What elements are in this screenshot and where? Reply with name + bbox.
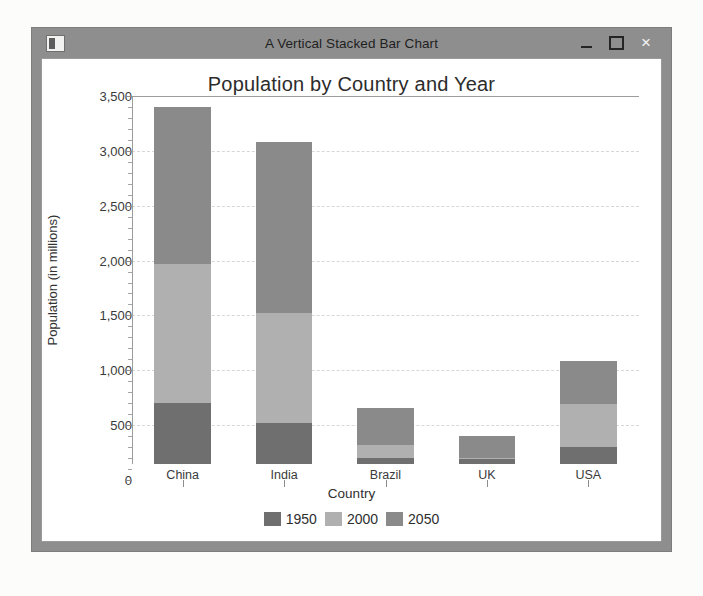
- legend-item[interactable]: 2000: [325, 511, 378, 527]
- bar-segment[interactable]: [357, 445, 414, 458]
- x-axis-tick-labels: ChinaIndiaBrazilUKUSA: [42, 464, 661, 484]
- bar-segment[interactable]: [256, 142, 313, 312]
- x-axis-tick-label: India: [271, 468, 298, 482]
- y-axis-major-tick: [125, 206, 132, 207]
- y-axis-minor-tick: [128, 359, 132, 360]
- bar-segment[interactable]: [154, 264, 211, 403]
- y-axis-minor-tick: [128, 129, 132, 130]
- legend-label: 2050: [408, 511, 439, 527]
- chart-axes: [132, 96, 639, 464]
- y-axis-minor-tick: [128, 414, 132, 415]
- y-axis-minor-tick: [128, 447, 132, 448]
- legend-item[interactable]: 1950: [264, 511, 317, 527]
- x-axis-tick-label: China: [166, 468, 199, 482]
- bar-series-layer: [132, 96, 639, 464]
- y-axis-major-tick: [125, 96, 132, 97]
- bar-segment[interactable]: [154, 107, 211, 263]
- bar-segment[interactable]: [357, 408, 414, 445]
- x-axis-tick-label: USA: [575, 468, 601, 482]
- y-axis-minor-tick: [128, 304, 132, 305]
- y-axis-minor-tick: [128, 118, 132, 119]
- bar-group[interactable]: [154, 80, 211, 464]
- bar-segment[interactable]: [154, 403, 211, 464]
- bar-group[interactable]: [560, 80, 617, 464]
- y-axis-minor-tick: [128, 436, 132, 437]
- y-axis-minor-tick: [128, 381, 132, 382]
- y-axis-minor-tick: [128, 293, 132, 294]
- x-axis-title: Country: [42, 486, 661, 501]
- y-axis-minor-tick: [128, 458, 132, 459]
- x-axis-tick-label: Brazil: [370, 468, 401, 482]
- y-axis-minor-tick: [128, 184, 132, 185]
- bar-segment[interactable]: [560, 404, 617, 447]
- bar-segment[interactable]: [459, 458, 516, 459]
- window-client-area: Population by Country and Year Populatio…: [41, 58, 662, 542]
- legend-label: 2000: [347, 511, 378, 527]
- bar-group[interactable]: [357, 80, 414, 464]
- application-window: A Vertical Stacked Bar Chart × Populatio…: [31, 27, 672, 552]
- y-axis-major-tick: [125, 315, 132, 316]
- bar-segment[interactable]: [560, 361, 617, 404]
- legend-color-swatch: [386, 512, 403, 526]
- y-axis-line: [132, 96, 133, 464]
- desktop-background: A Vertical Stacked Bar Chart × Populatio…: [0, 0, 703, 596]
- y-axis-minor-tick: [128, 250, 132, 251]
- y-axis-minor-tick: [128, 348, 132, 349]
- y-axis-minor-tick: [128, 107, 132, 108]
- y-axis-title: Population (in millions): [45, 180, 60, 380]
- y-axis-minor-tick: [128, 326, 132, 327]
- y-axis-major-tick: [125, 261, 132, 262]
- bar-segment[interactable]: [459, 436, 516, 457]
- y-axis-major-tick: [125, 425, 132, 426]
- y-axis-minor-tick: [128, 272, 132, 273]
- x-axis-line: [132, 96, 639, 97]
- y-axis-major-tick: [125, 370, 132, 371]
- y-axis-tick-labels: 05001,0001,5002,0002,5003,0003,500: [68, 96, 132, 464]
- bar-segment[interactable]: [560, 447, 617, 464]
- legend-color-swatch: [264, 512, 281, 526]
- bar-group[interactable]: [256, 80, 313, 464]
- bar-segment[interactable]: [256, 313, 313, 423]
- bar-segment[interactable]: [256, 423, 313, 464]
- y-axis-minor-tick: [128, 403, 132, 404]
- x-axis-tick-label: UK: [478, 468, 495, 482]
- minimize-button[interactable]: [571, 30, 601, 56]
- window-controls: ×: [571, 30, 665, 56]
- y-axis-minor-tick: [128, 195, 132, 196]
- y-axis-minor-tick: [128, 392, 132, 393]
- y-axis-minor-tick: [128, 140, 132, 141]
- legend-color-swatch: [325, 512, 342, 526]
- app-window-icon: [46, 35, 65, 52]
- close-icon[interactable]: ×: [631, 30, 661, 56]
- y-axis-minor-tick: [128, 217, 132, 218]
- y-axis-minor-tick: [128, 162, 132, 163]
- maximize-button[interactable]: [601, 30, 631, 56]
- y-axis-minor-tick: [128, 239, 132, 240]
- legend-item[interactable]: 2050: [386, 511, 439, 527]
- y-axis-minor-tick: [128, 173, 132, 174]
- bar-group[interactable]: [459, 80, 516, 464]
- window-title-bar[interactable]: A Vertical Stacked Bar Chart ×: [32, 28, 671, 58]
- legend-label: 1950: [286, 511, 317, 527]
- chart-legend: 195020002050: [42, 511, 661, 527]
- y-axis-minor-tick: [128, 283, 132, 284]
- y-axis-major-tick: [125, 151, 132, 152]
- chart-plot-area: Population (in millions) 05001,0001,5002…: [42, 96, 661, 464]
- y-axis-minor-tick: [128, 337, 132, 338]
- y-axis-minor-tick: [128, 228, 132, 229]
